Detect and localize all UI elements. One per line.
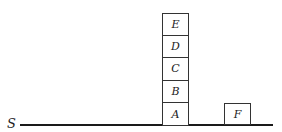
block-a: A xyxy=(162,103,189,126)
block-d: D xyxy=(162,36,189,59)
surface-label: S xyxy=(7,117,16,130)
block-stack: E D C B A xyxy=(162,13,189,126)
block-f: F xyxy=(224,103,251,125)
block-b: B xyxy=(162,81,189,104)
block-e: E xyxy=(162,13,189,36)
block-c: C xyxy=(162,58,189,81)
